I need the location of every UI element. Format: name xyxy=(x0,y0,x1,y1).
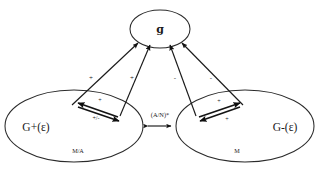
diagram-canvas: + + - - + +/- + + (A/N)* ɡ G+(ε) M/A G-(… xyxy=(0,0,316,174)
edge-gminus-outer-to-g xyxy=(182,43,243,105)
sign-gminus-inner: - xyxy=(174,74,177,82)
diagram-svg: + + - - + +/- + + (A/N)* ɡ G+(ε) M/A G-(… xyxy=(0,0,316,174)
g-minus-node-label: G-(ε) xyxy=(273,121,298,134)
sign-right-pair-bottom: + xyxy=(225,116,229,122)
g-minus-node-sublabel: M xyxy=(234,147,240,154)
sign-gplus-inner: + xyxy=(130,74,134,82)
g-plus-node-label: G+(ε) xyxy=(22,121,49,134)
sign-gminus-outer: - xyxy=(210,74,213,82)
growth-rate-node-label: ɡ xyxy=(156,23,164,36)
sign-left-pair-top: + xyxy=(98,97,102,103)
sign-right-pair-top: + xyxy=(217,98,221,104)
sign-left-pair-bottom: +/- xyxy=(92,115,99,121)
sign-gplus-outer: + xyxy=(89,74,93,82)
g-plus-node-sublabel: M/A xyxy=(72,147,84,154)
edge-between-nodes-label: (A/N)* xyxy=(151,111,169,119)
